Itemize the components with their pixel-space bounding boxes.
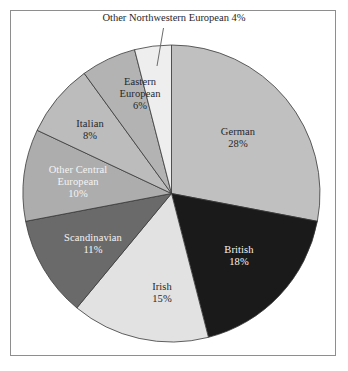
pie-chart-figure: Other Northwestern European 4% German 28… xyxy=(0,0,348,371)
pie-svg xyxy=(0,0,348,371)
pie-slice-german xyxy=(172,45,321,221)
pie-slices-group xyxy=(23,45,320,342)
